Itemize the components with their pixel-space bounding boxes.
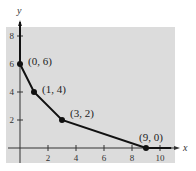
y-tick-label: 2 xyxy=(10,115,15,125)
vertex-label: (3, 2) xyxy=(70,107,94,120)
y-tick-label: 4 xyxy=(10,87,15,97)
x-tick-label: 2 xyxy=(46,153,51,163)
y-tick-label: 6 xyxy=(10,59,15,69)
x-tick-label: 4 xyxy=(74,153,79,163)
vertex-point xyxy=(17,61,23,67)
vertex-point xyxy=(31,89,37,95)
x-tick-label: 8 xyxy=(130,153,135,163)
vertex-label: (0, 6) xyxy=(28,55,52,68)
x-tick-label: 6 xyxy=(102,153,107,163)
x-tick-label: 10 xyxy=(156,153,166,163)
vertex-point xyxy=(59,117,65,123)
vertex-label: (9, 0) xyxy=(139,131,163,144)
x-axis-arrow-icon xyxy=(174,146,180,150)
vertex-point xyxy=(143,145,149,151)
feasible-region-chart: yx 2468102468 (0, 6)(1, 4)(3, 2)(9, 0) xyxy=(0,0,196,171)
x-axis-label: x xyxy=(182,142,188,153)
y-axis-label: y xyxy=(16,5,22,16)
vertex-label: (1, 4) xyxy=(42,83,66,96)
y-tick-label: 8 xyxy=(10,31,15,41)
